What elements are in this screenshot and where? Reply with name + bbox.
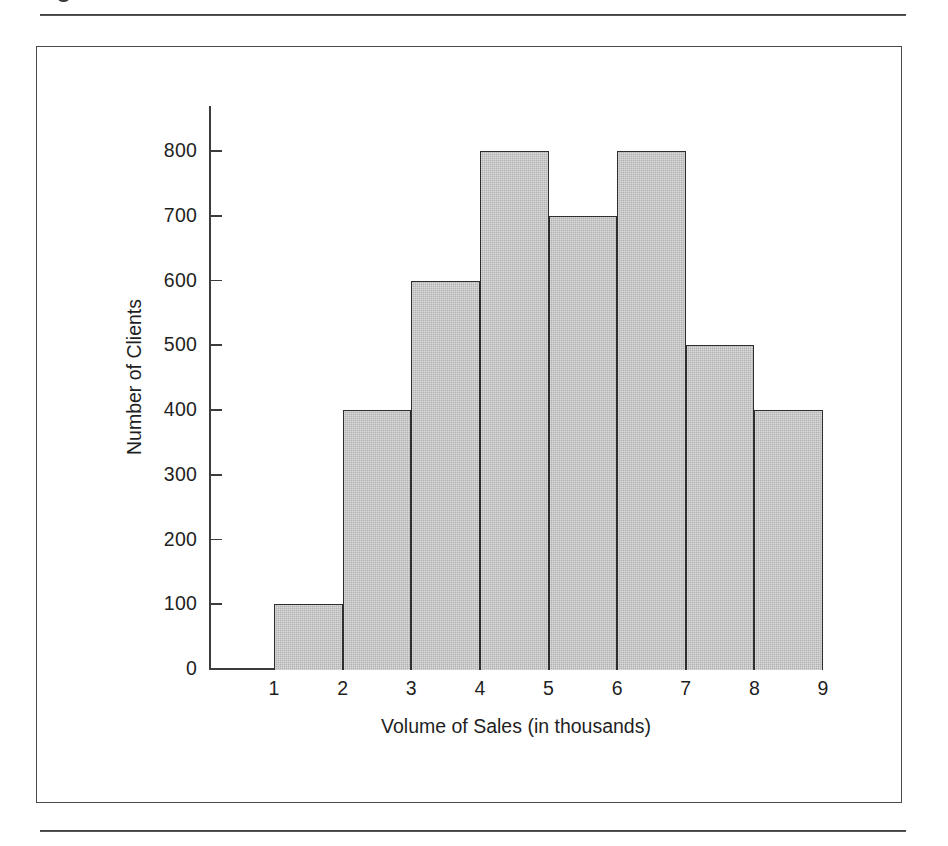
page-canvas: 0100200300400500600700800 123456789 Volu… <box>0 0 948 846</box>
y-axis-tick-label: 600 <box>139 271 197 291</box>
y-axis-tick-label: 400 <box>139 400 197 420</box>
x-axis-tick-label: 4 <box>460 677 500 699</box>
y-axis-tick <box>211 474 222 476</box>
x-axis-tick-label: 2 <box>323 677 363 699</box>
y-axis-tick-label: 100 <box>139 594 197 614</box>
x-axis-tick-label: 5 <box>529 677 569 699</box>
page-crop-artifact-glyph <box>57 0 70 2</box>
y-axis-tick <box>211 668 222 670</box>
y-axis-tick-label: 700 <box>139 206 197 226</box>
histogram-bar <box>617 151 686 670</box>
horizontal-rule-bottom <box>40 830 906 832</box>
y-axis-tick <box>211 344 222 346</box>
horizontal-rule-top <box>40 14 906 16</box>
y-axis-tick <box>211 215 222 217</box>
y-axis-tick-label: 300 <box>139 465 197 485</box>
x-axis-tick-label: 7 <box>666 677 706 699</box>
histogram-bar <box>480 151 549 670</box>
figure-frame: 0100200300400500600700800 123456789 Volu… <box>36 46 902 803</box>
histogram-bar <box>274 604 343 670</box>
histogram-bar <box>549 216 618 670</box>
histogram-bar <box>411 281 480 671</box>
chart-plot-area: 0100200300400500600700800 123456789 Volu… <box>37 47 903 804</box>
x-axis-tick-label: 3 <box>391 677 431 699</box>
histogram-bar <box>343 410 412 670</box>
y-axis-tick <box>211 150 222 152</box>
x-axis-title: Volume of Sales (in thousands) <box>209 715 823 737</box>
x-axis-tick-label: 9 <box>803 677 843 699</box>
y-axis-tick-label: 200 <box>139 530 197 550</box>
x-axis-tick-label: 6 <box>597 677 637 699</box>
y-axis-line <box>209 106 211 670</box>
histogram-bar <box>754 410 823 670</box>
histogram-bar <box>686 345 755 670</box>
x-axis-tick-label: 8 <box>734 677 774 699</box>
y-axis-title: Number of Clients <box>121 277 147 477</box>
y-axis-tick-label: 800 <box>139 141 197 161</box>
y-axis-tick <box>211 603 222 605</box>
y-axis-tick <box>211 409 222 411</box>
y-axis-tick <box>211 539 222 541</box>
y-axis-tick-label: 500 <box>139 335 197 355</box>
y-axis-tick <box>211 280 222 282</box>
y-axis-tick-label: 0 <box>139 659 197 679</box>
y-axis-title-text: Number of Clients <box>123 299 145 455</box>
x-axis-tick-label: 1 <box>254 677 294 699</box>
